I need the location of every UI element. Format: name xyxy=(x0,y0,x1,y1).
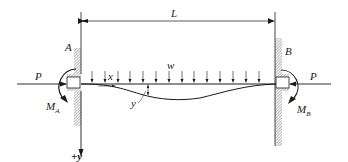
x-coordinate-label: x xyxy=(107,70,113,82)
distributed-load: w xyxy=(91,59,261,83)
beam-diagram: L A B P P MA xyxy=(0,0,348,162)
load-arrow-icon xyxy=(181,71,184,83)
load-arrow-icon xyxy=(193,71,196,83)
load-arrow-icon xyxy=(219,71,222,83)
moment-a-label: MA xyxy=(45,100,60,115)
load-arrow-icon xyxy=(117,71,120,83)
load-arrow-icon xyxy=(91,71,94,83)
distributed-load-label: w xyxy=(167,59,175,71)
support-b-label: B xyxy=(285,45,292,57)
load-arrow-icon xyxy=(142,71,145,83)
load-arrow-icon xyxy=(232,71,235,83)
load-arrow-icon xyxy=(129,71,132,83)
deflection-label: y xyxy=(130,97,136,109)
load-arrow-icon xyxy=(168,71,171,83)
load-arrow-icon xyxy=(258,71,261,83)
axial-load-right-arrow-icon xyxy=(289,82,296,87)
support-a: A xyxy=(64,41,84,157)
load-arrow-icon xyxy=(155,71,158,83)
support-a-label: A xyxy=(64,41,72,53)
clamp-box-a xyxy=(67,77,80,88)
clamp-box-b xyxy=(276,77,289,88)
span-dimension: L xyxy=(81,7,275,48)
moment-b-label: MB xyxy=(296,103,311,118)
load-arrow-icon xyxy=(104,71,107,83)
deflection-marker: y xyxy=(130,85,149,110)
support-b: B xyxy=(275,38,292,146)
axial-load-left-label: P xyxy=(34,70,42,82)
y-axis-label: +y xyxy=(71,150,82,162)
load-arrow-icon xyxy=(245,71,248,83)
axial-load-right-label: P xyxy=(309,70,317,82)
deflection-curve xyxy=(81,84,276,100)
axial-load-left-arrow-icon xyxy=(60,82,67,87)
load-arrow-icon xyxy=(206,71,209,83)
span-label: L xyxy=(170,7,177,19)
